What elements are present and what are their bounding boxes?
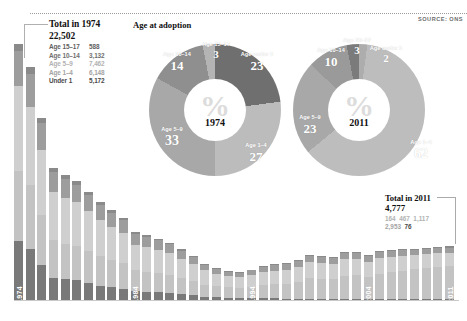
bar-segment	[200, 285, 209, 297]
bar-column	[352, 252, 361, 300]
bar-segment	[259, 272, 268, 285]
bar-segment	[49, 240, 58, 278]
bar-segment	[37, 265, 46, 300]
bar-column	[317, 256, 326, 300]
infographic-canvas: SOURCE: ONS Total in 1974 22,502 Age 15–…	[0, 0, 467, 321]
bar-column	[165, 243, 174, 300]
bar-column	[200, 264, 209, 300]
bar-segment	[131, 234, 140, 244]
bar-column	[212, 268, 221, 300]
bar-segment	[224, 287, 233, 297]
bar-column: 1984	[131, 232, 140, 300]
bar-column	[282, 263, 291, 300]
bar-segment	[142, 237, 151, 247]
bar-segment	[387, 272, 396, 299]
bar-segment	[26, 185, 35, 249]
bar-segment	[165, 293, 174, 300]
bar-column	[410, 249, 419, 300]
bar-segment	[61, 179, 70, 198]
bar-segment	[433, 253, 442, 266]
donut-slice-name: Age 15–17	[327, 38, 387, 44]
bar-segment	[154, 273, 163, 292]
bar-segment	[96, 220, 105, 256]
bar-column	[422, 248, 431, 300]
bar-segment	[37, 215, 46, 265]
bar-column	[72, 181, 81, 300]
bar-column	[329, 257, 338, 300]
bar-segment	[49, 192, 58, 240]
bar-column	[177, 249, 186, 300]
bar-segment	[96, 256, 105, 286]
left-callout-title: Total in 1974	[49, 19, 141, 31]
donut-section-title: Age at adoption	[133, 20, 191, 30]
bar-segment	[154, 240, 163, 249]
bar-segment	[189, 257, 198, 264]
bar-segment	[398, 271, 407, 299]
bar-segment	[119, 233, 128, 264]
bar-segment	[398, 256, 407, 271]
bar-column	[259, 266, 268, 300]
bar-segment	[37, 123, 46, 150]
bar-segment	[154, 292, 163, 300]
bar-segment	[317, 279, 326, 299]
bar-column	[340, 252, 349, 300]
bar-segment	[14, 44, 23, 51]
bar-segment	[212, 274, 221, 287]
bar-segment	[119, 263, 128, 289]
bar-segment	[96, 205, 105, 220]
bar-segment	[177, 278, 186, 294]
bar-segment	[375, 258, 384, 274]
bar-segment	[14, 171, 23, 241]
bar-column	[235, 272, 244, 300]
bar-segment	[352, 259, 361, 275]
bar-segment	[317, 263, 326, 279]
bar-segment	[410, 255, 419, 269]
bar-column	[294, 260, 303, 300]
bar-segment	[422, 268, 431, 299]
bar-segment	[49, 172, 58, 192]
bar-column	[154, 239, 163, 300]
bar-column: 1974	[14, 44, 23, 300]
bar-segment	[352, 275, 361, 298]
bar-column	[37, 118, 46, 300]
bar-column	[189, 256, 198, 300]
left-callout-leader-horizontal	[24, 24, 48, 25]
bar-segment	[26, 107, 35, 185]
bar-segment	[294, 282, 303, 299]
bar-segment	[329, 279, 338, 298]
bar-column	[305, 255, 314, 300]
bar-column	[61, 175, 70, 300]
bar-column	[49, 168, 58, 300]
bar-segment	[340, 259, 349, 275]
bar-segment	[26, 249, 35, 300]
bar-segment	[270, 284, 279, 298]
bar-segment	[305, 278, 314, 298]
bar-segment	[61, 244, 70, 280]
top-dotted-rule	[30, 13, 467, 14]
bar-segment	[14, 86, 23, 171]
bar-segment	[165, 253, 174, 275]
bar-segment	[282, 270, 291, 284]
bar-segment	[131, 245, 140, 270]
bar-segment	[72, 280, 81, 300]
bar-segment	[189, 281, 198, 295]
bar-segment	[154, 250, 163, 273]
bar-segment	[119, 220, 128, 233]
bar-segment	[26, 74, 35, 107]
bar-segment	[387, 257, 396, 272]
bar-segment	[294, 267, 303, 282]
bar-column	[142, 235, 151, 300]
stacked-bar-chart: 19741984199420042011	[14, 44, 459, 300]
bar-segment	[235, 277, 244, 288]
bar-segment	[14, 51, 23, 87]
bar-segment	[84, 211, 93, 251]
bar-segment	[142, 272, 151, 292]
bar-segment	[165, 275, 174, 293]
bar-segment	[189, 264, 198, 281]
bar-segment	[177, 259, 186, 278]
bar-column: 2011	[445, 246, 454, 300]
bar-segment	[61, 198, 70, 244]
bar-segment	[305, 262, 314, 278]
source-note: SOURCE: ONS	[418, 16, 463, 22]
bar-segment	[270, 271, 279, 285]
